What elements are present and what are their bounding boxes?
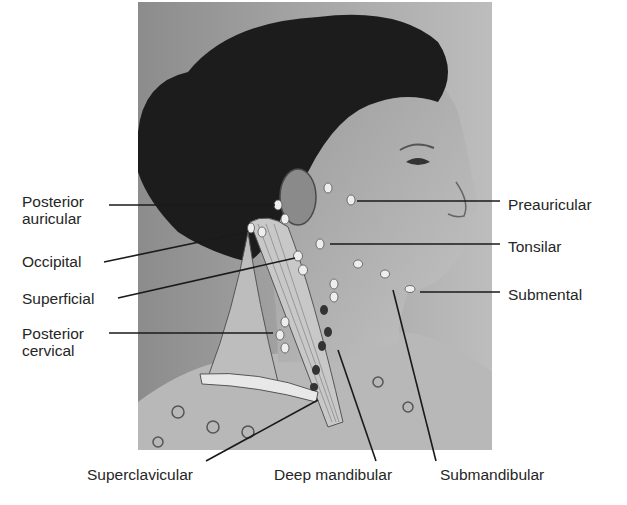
label-line: Submental: [508, 286, 582, 303]
anatomical-photo: [138, 2, 492, 450]
label-occipital: Occipital: [22, 253, 81, 270]
label-line: Superficial: [22, 290, 94, 307]
label-submental: Submental: [508, 286, 582, 303]
label-line: Preauricular: [508, 196, 592, 213]
label-line: Posterior: [22, 325, 84, 342]
label-posterior-auricular: Posterior auricular: [22, 193, 84, 227]
label-line: Tonsilar: [508, 238, 561, 255]
label-line: auricular: [22, 210, 84, 227]
label-line: cervical: [22, 342, 84, 359]
label-preauricular: Preauricular: [508, 196, 592, 213]
label-deep-mandibular: Deep mandibular: [274, 466, 392, 483]
label-superclavicular: Superclavicular: [87, 466, 193, 483]
label-line: Submandibular: [440, 466, 544, 483]
label-submandibular: Submandibular: [440, 466, 544, 483]
label-line: Occipital: [22, 253, 81, 270]
label-tonsilar: Tonsilar: [508, 238, 561, 255]
label-superficial: Superficial: [22, 290, 94, 307]
label-posterior-cervical: Posterior cervical: [22, 325, 84, 359]
label-line: Posterior: [22, 193, 84, 210]
label-line: Deep mandibular: [274, 466, 392, 483]
label-line: Superclavicular: [87, 466, 193, 483]
